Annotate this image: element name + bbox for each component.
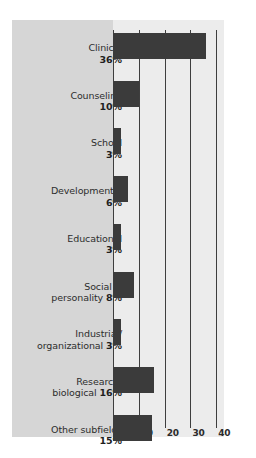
category-label: Research,biological 16% [24,376,122,399]
bar [113,415,152,441]
bar [113,128,121,154]
category-label: Clinical36% [24,42,122,65]
bar-chart-figure: 010203040 Clinical36%Counseling10%School… [0,0,256,458]
category-label-line2: organizational [37,340,106,351]
category-label: Developmental6% [24,185,122,208]
category-label: Other subfields15% [24,424,122,447]
bar [113,33,206,59]
bar [113,176,128,202]
category-label: Industrial/organizational 3% [24,328,122,351]
category-label: School3% [24,137,122,160]
bar [113,272,134,298]
category-label-line2: biological [52,387,99,398]
bar [113,224,121,250]
category-label: Social &personality 8% [24,281,122,304]
category-label-line1: Other subfields [51,424,122,435]
bar [113,81,139,107]
category-label: Educational3% [24,233,122,256]
category-labels-group: Clinical36%Counseling10%School3%Developm… [24,40,125,457]
category-label-line1: Developmental [51,185,122,196]
category-label: Counseling10% [24,90,122,113]
bar [113,319,121,345]
bar [113,367,154,393]
category-label-line2: personality [51,292,106,303]
bars-group [113,20,224,437]
